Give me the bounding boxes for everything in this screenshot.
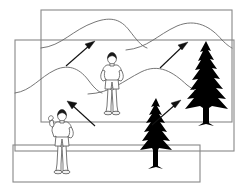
figure-lower-left-shoe-right xyxy=(62,170,70,174)
figure-center-shoe-right xyxy=(112,111,120,115)
landscape-montage-svg xyxy=(0,0,240,192)
figure-lower-left-shoe-left xyxy=(54,170,62,174)
illustration-canvas xyxy=(0,0,240,192)
figure-center-shoe-left xyxy=(104,111,112,115)
